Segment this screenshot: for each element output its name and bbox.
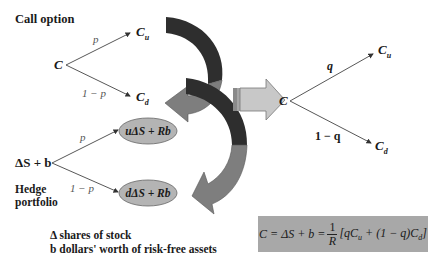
rn-root-node: C (279, 93, 288, 109)
call-down-node: Cd (136, 89, 149, 107)
hedge-prob-down: 1 − p (70, 182, 94, 194)
hedge-label-line1: Hedge (15, 183, 58, 196)
call-up-node: Cu (136, 24, 149, 42)
formula-lhs: C = ΔS + b = (259, 227, 325, 242)
rn-prob-down: 1 − q (315, 129, 341, 144)
hedge-down-value: dΔS + Rb (119, 181, 177, 205)
rn-up-node: Cu (378, 42, 391, 60)
hedge-up-value: uΔS + Rb (119, 119, 177, 143)
legend: Δ shares of stock b dollars' worth of ri… (50, 228, 217, 256)
call-prob-down: 1 − p (82, 87, 106, 99)
call-root-node: C (54, 57, 63, 73)
right-block-arrow (233, 79, 285, 120)
legend-delta-shares: Δ shares of stock (50, 228, 217, 242)
hedge-root-node: ΔS + b (15, 155, 52, 171)
formula-fraction: 1 R (327, 221, 337, 248)
rn-down-node: Cd (375, 138, 388, 156)
hedge-prob-up: p (80, 131, 86, 143)
call-prob-up: p (93, 33, 99, 45)
call-option-title: Call option (15, 12, 74, 27)
hedge-portfolio-label: Hedge portfolio (15, 183, 58, 209)
pricing-formula-box: C = ΔS + b = 1 R [qCu + (1 − q)Cd] (258, 216, 428, 252)
hedge-label-line2: portfolio (15, 196, 58, 209)
formula-rhs: [qCu + (1 − q)Cd] (339, 226, 427, 242)
legend-b-dollars: b dollars' worth of risk-free assets (50, 242, 217, 256)
rn-prob-up: q (327, 59, 333, 74)
